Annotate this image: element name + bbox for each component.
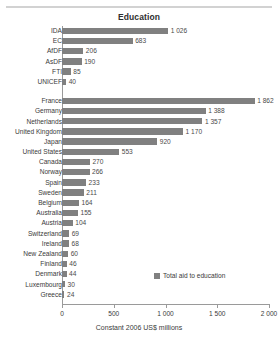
bar-value-label: 190: [84, 57, 95, 67]
bar-value-label: 1 170: [186, 127, 203, 137]
bar: [62, 179, 86, 185]
bar: [62, 281, 65, 287]
legend: Total aid to education: [154, 272, 225, 279]
bar-row: Austria104: [0, 218, 278, 228]
bar-row: Sweden211: [0, 188, 278, 198]
x-tick-label: 0: [60, 310, 64, 317]
bar: [62, 210, 78, 216]
category-label: France: [0, 96, 62, 106]
bar-value-label: 40: [69, 77, 76, 87]
legend-swatch-icon: [154, 273, 160, 279]
category-label: Norway: [0, 167, 62, 177]
category-label: Greece: [0, 290, 62, 300]
category-label: Sweden: [0, 188, 62, 198]
bar-row: New Zealand60: [0, 249, 278, 259]
x-tick-label: 1 000: [157, 310, 174, 317]
x-tick: [166, 304, 167, 308]
bar-row: France1 862: [0, 96, 278, 106]
bar-row: IDA1 026: [0, 26, 278, 36]
category-label: Belgium: [0, 198, 62, 208]
bar: [62, 98, 255, 104]
top-divider: [6, 6, 272, 8]
x-axis-title: Constant 2006 US$ millions: [0, 324, 278, 331]
bar-row: Spain233: [0, 178, 278, 188]
bar-value-label: 1 357: [205, 117, 222, 127]
category-label: Japan: [0, 137, 62, 147]
bar-rows: IDA1 026EC683AfDF206AsDF190FTI85UNICEF40…: [0, 26, 278, 300]
x-tick: [269, 304, 270, 308]
bar-value-label: 206: [86, 46, 97, 56]
chart-title: Education: [0, 12, 278, 22]
category-label: Spain: [0, 178, 62, 188]
bar: [62, 28, 168, 34]
x-tick-label: 500: [108, 310, 119, 317]
bar-row: Netherlands1 357: [0, 117, 278, 127]
bar-row: AfDF206: [0, 46, 278, 56]
bar-value-label: 553: [122, 147, 133, 157]
bar: [62, 291, 64, 297]
bar-value-label: 104: [75, 218, 86, 228]
bar-row: Germany1 388: [0, 106, 278, 116]
bar-value-label: 69: [72, 229, 79, 239]
category-label: AfDF: [0, 46, 62, 56]
category-label: Austria: [0, 218, 62, 228]
x-axis: 05001 0001 5002 000 Constant 2006 US$ mi…: [0, 304, 278, 349]
bar-value-label: 266: [92, 167, 103, 177]
bar: [62, 128, 183, 134]
plot-area: IDA1 026EC683AfDF206AsDF190FTI85UNICEF40…: [0, 26, 278, 304]
category-label: AsDF: [0, 57, 62, 67]
category-label: United Kingdom: [0, 127, 62, 137]
bar-value-label: 44: [69, 269, 76, 279]
category-label: Netherlands: [0, 117, 62, 127]
category-label: Australia: [0, 208, 62, 218]
legend-label: Total aid to education: [163, 272, 225, 279]
bar-value-label: 1 388: [208, 106, 225, 116]
category-label: New Zealand: [0, 249, 62, 259]
bar: [62, 169, 90, 175]
bar-row: Greece24: [0, 290, 278, 300]
bar: [62, 251, 68, 257]
category-label: Ireland: [0, 239, 62, 249]
bar-row: United Kingdom1 170: [0, 127, 278, 137]
bar: [62, 271, 67, 277]
bar-row: Australia155: [0, 208, 278, 218]
x-tick-label: 1 500: [209, 310, 226, 317]
bar: [62, 38, 133, 44]
category-label: IDA: [0, 26, 62, 36]
bar-row: Belgium164: [0, 198, 278, 208]
bar-value-label: 46: [69, 259, 76, 269]
bar-row: Finland46: [0, 259, 278, 269]
bar-value-label: 68: [72, 239, 79, 249]
bar-value-label: 270: [92, 157, 103, 167]
x-tick: [62, 304, 63, 308]
bar-row: Japan920: [0, 137, 278, 147]
category-label: FTI: [0, 67, 62, 77]
bar: [62, 138, 157, 144]
bar-value-label: 155: [81, 208, 92, 218]
bar-row: Luxembourg30: [0, 280, 278, 290]
bar-row: EC683: [0, 36, 278, 46]
bar: [62, 230, 69, 236]
bar: [62, 261, 67, 267]
category-label: EC: [0, 36, 62, 46]
bar-value-label: 164: [81, 198, 92, 208]
bar-row: AsDF190: [0, 57, 278, 67]
x-tick: [114, 304, 115, 308]
bar-value-label: 85: [73, 67, 80, 77]
bar: [62, 240, 69, 246]
bar-value-label: 1 026: [171, 26, 188, 36]
bar: [62, 58, 82, 64]
bar: [62, 108, 206, 114]
bar-value-label: 233: [89, 178, 100, 188]
bar-value-label: 1 862: [257, 96, 274, 106]
x-tick-label: 2 000: [261, 310, 278, 317]
bar: [62, 149, 119, 155]
bar: [62, 118, 202, 124]
category-label: UNICEF: [0, 77, 62, 87]
bar-value-label: 60: [71, 249, 78, 259]
bar: [62, 79, 66, 85]
category-label: Luxembourg: [0, 280, 62, 290]
bar: [62, 159, 90, 165]
bar-row: Ireland68: [0, 239, 278, 249]
category-label: United States: [0, 147, 62, 157]
